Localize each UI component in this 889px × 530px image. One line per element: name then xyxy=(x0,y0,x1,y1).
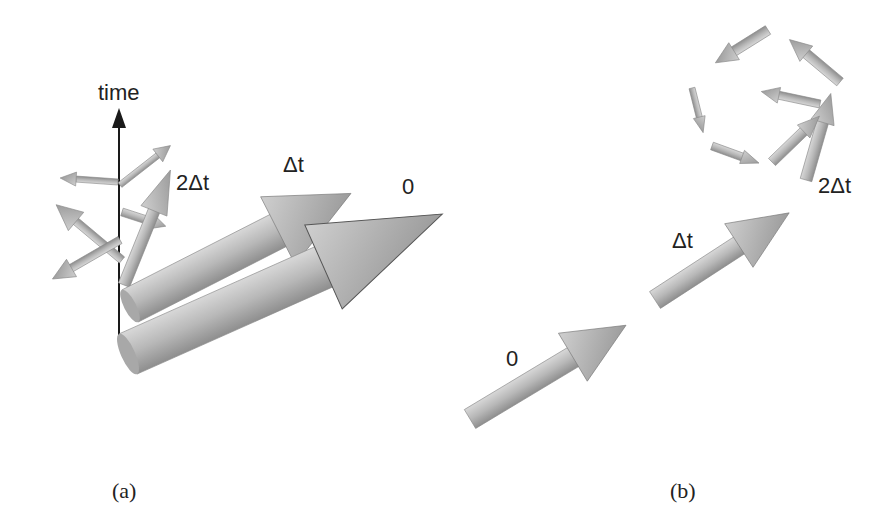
panel-a: time xyxy=(47,80,461,503)
caption-b: (b) xyxy=(670,478,696,503)
label-2dt-b: 2Δt xyxy=(818,173,851,198)
panel-b: 0 Δt xyxy=(456,22,851,503)
label-dt-b: Δt xyxy=(672,228,693,253)
time-axis-label: time xyxy=(98,80,140,105)
caption-a: (a) xyxy=(112,478,136,503)
loop-arrows xyxy=(686,22,846,184)
label-dt-a: Δt xyxy=(283,152,304,177)
axis-arrowhead-icon xyxy=(112,108,126,128)
arrow-0-b xyxy=(456,301,641,443)
label-0-b: 0 xyxy=(506,346,518,371)
arrow-dt-b xyxy=(641,191,804,322)
label-2dt-a: 2Δt xyxy=(176,170,209,195)
figure: time xyxy=(0,0,889,530)
small-arrows xyxy=(47,139,183,290)
label-0-a: 0 xyxy=(402,174,414,199)
